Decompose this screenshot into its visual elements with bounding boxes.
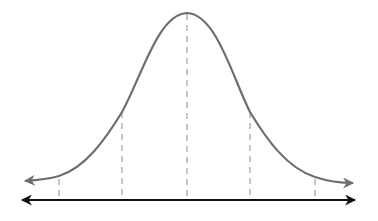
diagram-canvas [0, 0, 378, 221]
bell-curve [25, 13, 353, 183]
dashed-markers [59, 14, 315, 199]
normal-distribution-diagram [0, 0, 378, 221]
